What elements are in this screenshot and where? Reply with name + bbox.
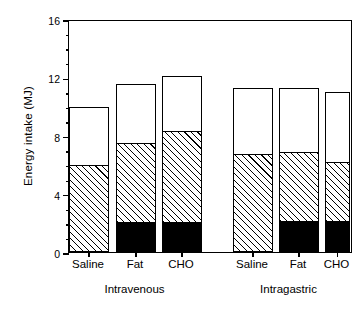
x-label-5-cho: CHO bbox=[297, 258, 361, 270]
y-tick-label: 8 bbox=[54, 131, 60, 145]
bar-segment-open bbox=[69, 107, 109, 165]
plot-area: 1612840 bbox=[68, 20, 352, 253]
bar-segment-hatched bbox=[279, 152, 319, 221]
y-tick-mark bbox=[66, 93, 70, 94]
bar-intravenous-fat bbox=[116, 84, 156, 252]
bar-segment-open bbox=[162, 76, 202, 131]
bar-segment-open bbox=[116, 84, 156, 143]
x-tick-mark bbox=[88, 252, 89, 257]
bar-segment-hatched bbox=[116, 143, 156, 222]
y-tick-label: 4 bbox=[54, 189, 60, 203]
bar-segment-solid bbox=[325, 221, 350, 252]
bar-segment-solid bbox=[279, 221, 319, 252]
y-tick-label: 12 bbox=[48, 72, 60, 86]
bar-intragastric-cho bbox=[325, 92, 350, 252]
y-tick-mark bbox=[66, 49, 70, 50]
y-tick-mark bbox=[63, 253, 69, 254]
x-tick-mark bbox=[135, 252, 136, 257]
x-axis-group-label-intravenous: Intravenous bbox=[68, 283, 201, 295]
bar-intragastric-fat bbox=[279, 88, 319, 252]
bar-segment-hatched bbox=[325, 162, 350, 222]
y-tick-mark bbox=[63, 20, 69, 21]
y-tick-mark bbox=[63, 79, 69, 80]
bar-intragastric-saline bbox=[233, 88, 273, 252]
bar-segment-open bbox=[233, 88, 273, 154]
bar-segment-open bbox=[325, 92, 350, 162]
x-tick-mark bbox=[298, 252, 299, 257]
y-tick-mark bbox=[66, 64, 70, 65]
bar-segment-hatched bbox=[233, 154, 273, 252]
x-axis-group-label-intragastric: Intragastric bbox=[225, 283, 352, 295]
plot-inner: 1612840 bbox=[69, 21, 351, 252]
x-tick-mark bbox=[337, 252, 338, 257]
bar-segment-hatched bbox=[69, 165, 109, 252]
x-tick-mark bbox=[252, 252, 253, 257]
bar-segment-open bbox=[279, 88, 319, 152]
bar-segment-solid bbox=[162, 222, 202, 252]
bar-chart: Energy intake (MJ) 1612840 SalineFatCHOS… bbox=[0, 0, 361, 310]
bar-intravenous-cho bbox=[162, 76, 202, 252]
bar-segment-solid bbox=[116, 222, 156, 252]
x-tick-mark bbox=[181, 252, 182, 257]
y-tick-mark bbox=[66, 35, 70, 36]
x-label-2-cho: CHO bbox=[141, 258, 221, 270]
y-axis-title: Energy intake (MJ) bbox=[22, 56, 34, 216]
bar-intravenous-saline bbox=[69, 107, 109, 252]
bar-segment-hatched bbox=[162, 131, 202, 222]
y-tick-label: 16 bbox=[48, 14, 60, 28]
